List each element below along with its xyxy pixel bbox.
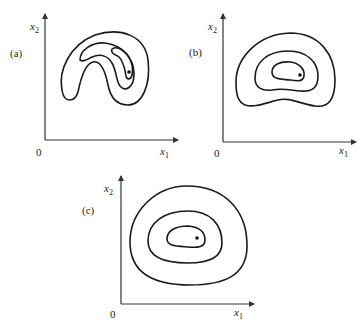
panel-b: (b) 0 x2 x1 <box>189 14 356 159</box>
x-axis-label: x1 <box>338 144 348 159</box>
origin-label: 0 <box>214 147 220 159</box>
minimum-point <box>127 70 131 74</box>
contour-inner <box>272 62 304 81</box>
y-axis-label: x2 <box>207 20 217 35</box>
minimum-point <box>298 73 302 77</box>
minimum-point <box>195 236 199 240</box>
panel-label: (b) <box>189 46 202 59</box>
contour-inner <box>167 226 205 247</box>
contour-middle <box>255 51 318 91</box>
x-axis-label: x1 <box>233 306 243 321</box>
y-axis-label: x2 <box>29 20 39 35</box>
x-axis-label: x1 <box>159 145 169 160</box>
panel-a: (a) 0 x2 x1 <box>10 14 178 160</box>
contour-middle <box>148 211 222 263</box>
panel-c: (c) 0 x2 x1 <box>82 176 254 321</box>
origin-label: 0 <box>36 146 42 158</box>
y-axis-label: x2 <box>103 182 113 197</box>
panel-label: (c) <box>82 204 95 217</box>
origin-label: 0 <box>110 308 116 320</box>
contour-figure: (a) 0 x2 x1 (b) 0 x2 x1 (c) 0 x2 x1 <box>0 0 364 326</box>
panel-label: (a) <box>10 47 23 60</box>
contour-outer <box>130 186 247 285</box>
contour-inner <box>112 48 133 79</box>
contour-outer <box>236 33 335 106</box>
